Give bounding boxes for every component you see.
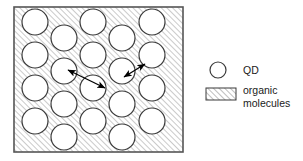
legend-organic-hatch-icon: [206, 88, 236, 100]
quantum-dot: [109, 25, 135, 51]
quantum-dot: [139, 108, 165, 134]
quantum-dot: [80, 108, 106, 134]
quantum-dot: [80, 9, 106, 35]
quantum-dot: [109, 91, 135, 117]
quantum-dot: [51, 91, 77, 117]
quantum-dot: [51, 58, 77, 84]
quantum-dot: [109, 58, 135, 84]
quantum-dot: [109, 124, 135, 150]
legend-organic-label-line-1: organic: [243, 84, 277, 96]
quantum-dot: [139, 75, 165, 101]
legend-organic-label-line-2: molecules: [243, 97, 290, 109]
quantum-dot-group: [22, 9, 165, 150]
figure-root: QD organic molecules: [0, 0, 303, 161]
quantum-dot: [139, 42, 165, 68]
figure-legend: QD organic molecules: [206, 62, 290, 109]
legend-qd-label: QD: [243, 64, 259, 76]
quantum-dot: [80, 75, 106, 101]
quantum-dot: [22, 42, 48, 68]
quantum-dot: [80, 42, 106, 68]
quantum-dot: [22, 9, 48, 35]
qd-organic-schematic: QD organic molecules: [0, 0, 303, 161]
quantum-dot: [22, 75, 48, 101]
quantum-dot: [51, 25, 77, 51]
quantum-dot: [51, 124, 77, 150]
quantum-dot: [22, 108, 48, 134]
legend-qd-circle-icon: [210, 62, 226, 78]
quantum-dot: [139, 9, 165, 35]
